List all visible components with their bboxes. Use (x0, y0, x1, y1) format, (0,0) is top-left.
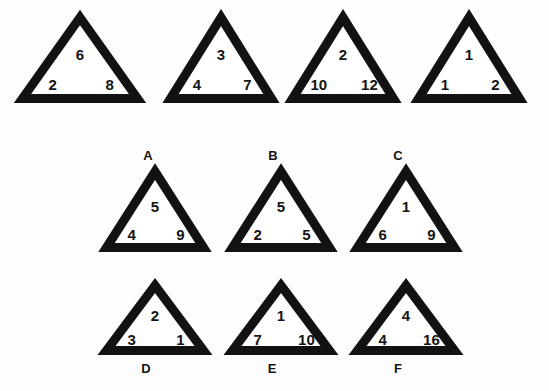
triangle-number-top: 4 (402, 308, 410, 323)
triangle-number-right: 1 (176, 332, 184, 347)
puzzle-canvas: 62834721012112 549A525B169C231D1710E4416… (0, 0, 549, 391)
example-triangle: 347 (166, 13, 276, 103)
option-triangle[interactable]: 1710 (228, 281, 334, 355)
triangle-number-top: 2 (151, 308, 159, 323)
triangle-number-top: 5 (277, 199, 285, 214)
triangle-number-left: 2 (49, 77, 57, 92)
triangle-number-left: 10 (310, 77, 327, 92)
triangle-number-left: 4 (128, 227, 136, 242)
triangle-number-left: 1 (441, 77, 449, 92)
triangle-number-right: 5 (302, 227, 310, 242)
option-triangle[interactable]: 4416 (353, 281, 459, 355)
triangle-number-top: 5 (151, 199, 159, 214)
option-triangle[interactable]: 525 (228, 167, 334, 252)
triangle-number-left: 2 (254, 227, 262, 242)
triangle-number-top: 1 (465, 47, 473, 62)
triangle-number-left: 4 (379, 332, 387, 347)
triangle-number-top: 3 (217, 47, 225, 62)
triangle-number-top: 2 (339, 47, 347, 62)
option-label-c[interactable]: C (393, 149, 402, 162)
option-triangle[interactable]: 169 (353, 167, 459, 252)
triangle-number-right: 9 (427, 227, 435, 242)
triangle-number-right: 16 (423, 332, 440, 347)
option-triangle[interactable]: 231 (102, 281, 208, 355)
example-triangle: 21012 (288, 13, 398, 103)
option-label-a[interactable]: A (143, 149, 152, 162)
option-label-d[interactable]: D (141, 362, 150, 375)
triangle-number-top: 1 (277, 308, 285, 323)
option-label-f[interactable]: F (394, 362, 402, 375)
triangle-number-left: 3 (128, 332, 136, 347)
triangle-number-left: 4 (193, 77, 201, 92)
option-triangle[interactable]: 549 (102, 167, 208, 252)
triangle-number-right: 7 (243, 77, 251, 92)
triangle-number-left: 6 (379, 227, 387, 242)
triangle-number-right: 2 (491, 77, 499, 92)
example-triangle: 112 (414, 13, 524, 103)
triangle-number-top: 6 (76, 47, 84, 62)
triangle-number-right: 9 (176, 227, 184, 242)
option-label-b[interactable]: B (268, 149, 277, 162)
triangle-number-left: 7 (254, 332, 262, 347)
triangle-number-right: 10 (298, 332, 315, 347)
option-label-e[interactable]: E (268, 362, 277, 375)
triangle-number-right: 12 (361, 77, 378, 92)
triangle-number-top: 1 (402, 199, 410, 214)
example-triangle: 628 (18, 13, 142, 103)
triangle-number-right: 8 (106, 77, 114, 92)
